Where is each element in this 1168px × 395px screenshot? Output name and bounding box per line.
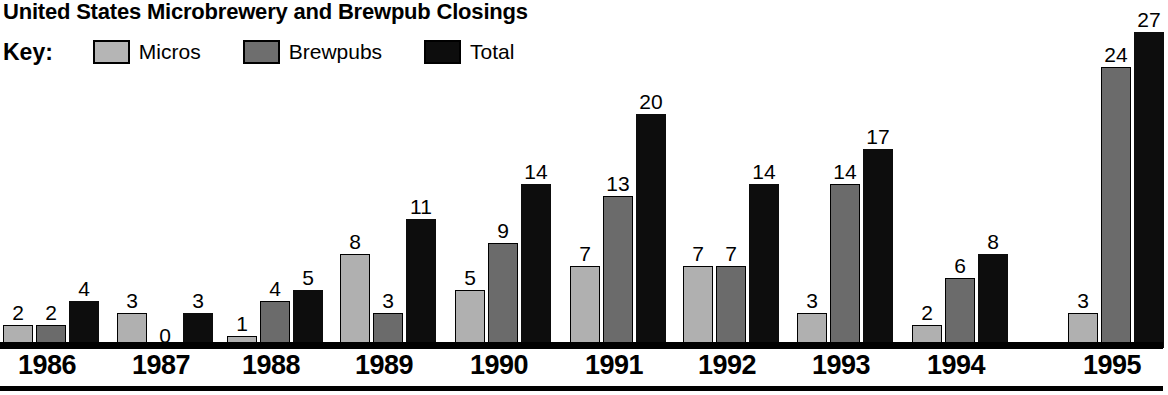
bar-1992-brewpubs[interactable]: [716, 266, 746, 348]
bar-1990-total[interactable]: [521, 184, 551, 348]
bar-group-1991: 71320: [570, 0, 680, 348]
x-tick-label-1988: 1988: [221, 350, 321, 381]
bar-group-1989: 8311: [340, 0, 450, 348]
value-label-1986-total: 4: [63, 278, 105, 299]
value-label-1994-total: 8: [972, 231, 1014, 252]
bar-group-1988: 145: [227, 0, 337, 348]
bar-1994-brewpubs[interactable]: [945, 278, 975, 348]
value-label-1987-total: 3: [177, 290, 219, 311]
value-label-1986-brewpubs: 2: [30, 302, 72, 323]
x-tick-label-1995: 1995: [1062, 350, 1162, 381]
bar-1993-brewpubs[interactable]: [830, 184, 860, 348]
bottom-rule: [0, 386, 1163, 391]
value-label-1993-micros: 3: [791, 290, 833, 311]
value-label-1992-brewpubs: 7: [710, 243, 752, 264]
bar-1991-brewpubs[interactable]: [603, 196, 633, 348]
x-tick-label-1986: 1986: [0, 350, 97, 381]
value-label-1992-total: 14: [743, 161, 785, 182]
bar-1991-micros[interactable]: [570, 266, 600, 348]
bar-1988-brewpubs[interactable]: [260, 301, 290, 348]
value-label-1991-micros: 7: [564, 243, 606, 264]
bar-group-1986: 224: [3, 0, 113, 348]
value-label-1991-total: 20: [630, 91, 672, 112]
x-tick-label-1989: 1989: [334, 350, 434, 381]
x-tick-label-1993: 1993: [791, 350, 891, 381]
value-label-1995-brewpubs: 24: [1095, 44, 1137, 65]
x-tick-label-1990: 1990: [449, 350, 549, 381]
bar-1995-brewpubs[interactable]: [1101, 67, 1131, 348]
value-label-1993-total: 17: [857, 126, 899, 147]
bar-group-1993: 31417: [797, 0, 907, 348]
value-label-1988-total: 5: [287, 267, 329, 288]
value-label-1995-total: 27: [1128, 9, 1168, 30]
x-tick-label-1987: 1987: [111, 350, 211, 381]
plot-area: 224303145831159147132077143141726832427: [0, 0, 1163, 348]
value-label-1993-brewpubs: 14: [824, 161, 866, 182]
bar-1995-total[interactable]: [1134, 32, 1164, 348]
value-label-1994-micros: 2: [906, 302, 948, 323]
bar-group-1992: 7714: [683, 0, 793, 348]
value-label-1991-brewpubs: 13: [597, 173, 639, 194]
value-label-1989-micros: 8: [334, 231, 376, 252]
x-tick-label-1994: 1994: [906, 350, 1006, 381]
value-label-1990-total: 14: [515, 161, 557, 182]
x-axis-tick-labels: 1986198719881989199019911992199319941995: [0, 350, 1163, 384]
bar-group-1994: 268: [912, 0, 1022, 348]
x-tick-label-1991: 1991: [564, 350, 664, 381]
bar-group-1995: 32427: [1068, 0, 1168, 348]
bar-1990-brewpubs[interactable]: [488, 243, 518, 348]
bar-1991-total[interactable]: [636, 114, 666, 348]
bar-1992-micros[interactable]: [683, 266, 713, 348]
value-label-1990-micros: 5: [449, 267, 491, 288]
value-label-1988-micros: 1: [221, 313, 263, 334]
bar-1986-total[interactable]: [69, 301, 99, 348]
x-axis-line: [0, 342, 1163, 349]
value-label-1989-total: 11: [400, 196, 442, 217]
bar-1990-micros[interactable]: [455, 290, 485, 349]
x-tick-label-1992: 1992: [677, 350, 777, 381]
bar-1988-total[interactable]: [293, 290, 323, 349]
bar-1993-total[interactable]: [863, 149, 893, 348]
value-label-1995-micros: 3: [1062, 290, 1104, 311]
value-label-1987-micros: 3: [111, 290, 153, 311]
bar-1992-total[interactable]: [749, 184, 779, 348]
value-label-1990-brewpubs: 9: [482, 220, 524, 241]
bar-group-1990: 5914: [455, 0, 565, 348]
value-label-1994-brewpubs: 6: [939, 255, 981, 276]
bar-group-1987: 303: [117, 0, 227, 348]
bar-1989-micros[interactable]: [340, 254, 370, 348]
value-label-1989-brewpubs: 3: [367, 290, 409, 311]
bar-1994-total[interactable]: [978, 254, 1008, 348]
bar-1989-total[interactable]: [406, 219, 436, 348]
